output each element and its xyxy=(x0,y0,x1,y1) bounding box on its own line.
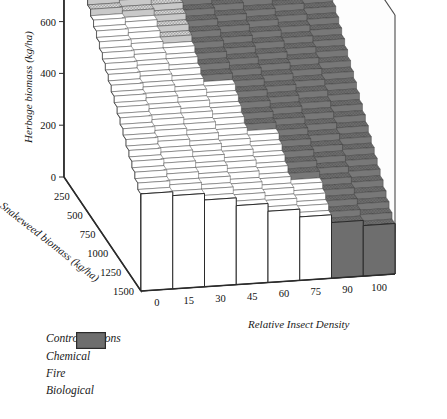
x-tick-label: 45 xyxy=(247,291,258,302)
x-tick-label: 60 xyxy=(279,288,290,299)
legend-items: ChemicalFireBiological xyxy=(46,350,121,396)
z-axis-title: Herbage biomass (kg/ha) xyxy=(18,22,36,152)
legend-item: Fire xyxy=(46,367,121,379)
z-tick-label: 400 xyxy=(40,68,56,79)
x-tick-label: 75 xyxy=(310,286,321,297)
y-tick-label: 750 xyxy=(80,229,96,240)
legend-item: Biological xyxy=(46,384,121,396)
legend-label: Biological xyxy=(46,384,94,396)
y-tick-label: 250 xyxy=(54,191,70,202)
z-tick-label: 0 xyxy=(51,172,56,183)
x-tick-label: 90 xyxy=(342,284,353,295)
y-tick-label: 1000 xyxy=(87,248,108,259)
x-tick-label: 100 xyxy=(371,282,387,293)
x-tick-label: 15 xyxy=(183,295,194,306)
y-tick-label: 500 xyxy=(67,210,83,221)
legend-item: Chemical xyxy=(46,350,121,362)
legend-label: Fire xyxy=(46,367,65,379)
surface-chart: 02004006008001,0002505007501000125015000… xyxy=(0,0,447,419)
x-axis-title: Relative Insect Density xyxy=(248,314,349,332)
legend: Control Options ChemicalFireBiological xyxy=(46,332,121,401)
z-tick-label: 200 xyxy=(40,120,56,131)
legend-label: Chemical xyxy=(46,350,90,362)
x-tick-label: 30 xyxy=(215,293,226,304)
z-tick-label: 600 xyxy=(40,17,56,28)
legend-swatch-biological xyxy=(76,332,106,349)
y-tick-label: 1500 xyxy=(113,286,134,297)
x-tick-label: 0 xyxy=(154,297,159,308)
